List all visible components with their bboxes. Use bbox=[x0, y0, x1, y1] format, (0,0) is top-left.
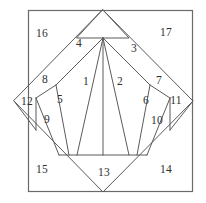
region-label-12: 12 bbox=[21, 96, 33, 108]
region-label-3: 3 bbox=[131, 43, 137, 55]
fan-ray-right-upper bbox=[103, 38, 150, 85]
region-label-6: 6 bbox=[143, 95, 149, 107]
region-label-17: 17 bbox=[160, 27, 172, 39]
region-label-11: 11 bbox=[170, 95, 181, 107]
geometry-figure: 1 2 3 4 5 6 7 8 9 10 11 12 13 14 15 16 1… bbox=[0, 0, 206, 203]
region-label-16: 16 bbox=[36, 28, 48, 40]
region-label-9: 9 bbox=[44, 114, 50, 126]
region-label-13: 13 bbox=[98, 167, 110, 179]
region-label-8: 8 bbox=[42, 74, 48, 86]
apex-cap-edges bbox=[77, 10, 129, 38]
region-label-4: 4 bbox=[76, 38, 82, 50]
region-label-5: 5 bbox=[57, 94, 63, 106]
region-label-7: 7 bbox=[156, 75, 162, 87]
fan-ray-left-inner bbox=[77, 38, 103, 155]
edge-left-peak-to-knee bbox=[36, 85, 56, 98]
region-label-1: 1 bbox=[83, 76, 89, 88]
region-label-10: 10 bbox=[151, 115, 163, 127]
fan-ray-right-inner bbox=[103, 38, 129, 155]
region-label-15: 15 bbox=[36, 164, 48, 176]
region-label-14: 14 bbox=[160, 164, 172, 176]
region-label-2: 2 bbox=[117, 76, 123, 88]
edge-right-peak-to-knee bbox=[150, 85, 170, 98]
